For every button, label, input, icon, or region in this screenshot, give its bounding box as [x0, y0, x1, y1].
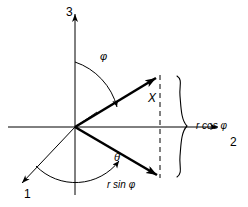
- angle-phi-arc: [75, 62, 117, 107]
- vector-rsin-label: r sin φ: [107, 180, 135, 190]
- diagram-canvas: [0, 0, 248, 207]
- vector-x-label: X: [148, 92, 156, 104]
- origin-stub-line: [75, 112, 97, 127]
- angle-theta-label: θ: [114, 152, 120, 163]
- vector-diagram-figure: 3 2 1 X φ θ r cos φ r sin φ: [0, 0, 248, 207]
- brace-rcos-label: r cos φ: [196, 121, 227, 131]
- angle-phi-label: φ: [100, 51, 107, 62]
- axis-3-label: 3: [66, 6, 73, 18]
- axis-1-line: [22, 127, 75, 183]
- axis-2-label: 2: [230, 136, 237, 148]
- axis-1-label: 1: [24, 188, 31, 200]
